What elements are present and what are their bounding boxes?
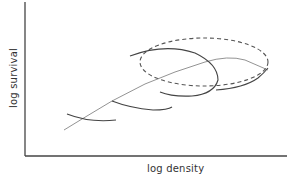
x-axis-label: log density bbox=[147, 163, 204, 174]
curve-4 bbox=[216, 68, 268, 90]
diagram-canvas bbox=[0, 0, 292, 180]
curve-1 bbox=[67, 114, 116, 121]
y-axis-label: log survival bbox=[8, 48, 19, 108]
curve-2 bbox=[112, 101, 172, 110]
